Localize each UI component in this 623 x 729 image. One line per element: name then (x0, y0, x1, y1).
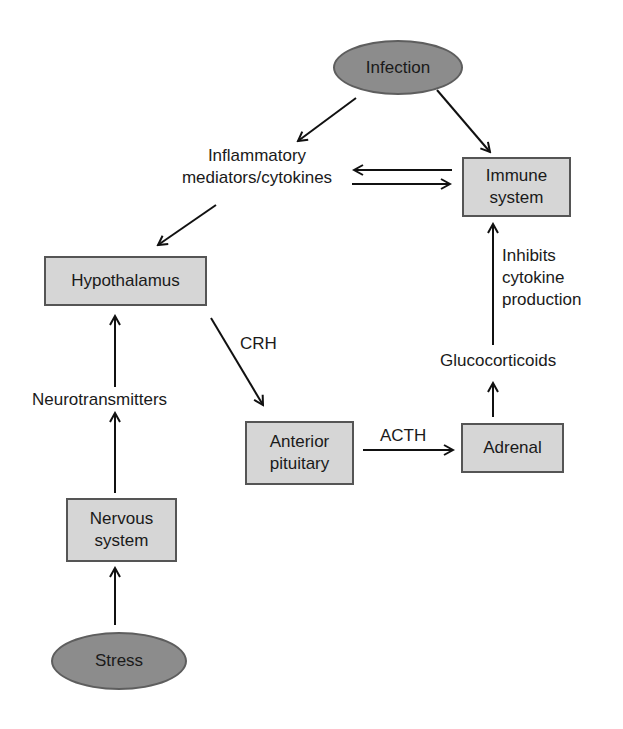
adrenal-label: Adrenal (483, 437, 542, 459)
inflammatory-mediators-label: Inflammatory mediators/cytokines (162, 145, 352, 189)
neurotransmitters-label: Neurotransmitters (32, 389, 167, 411)
crh-label: CRH (240, 333, 277, 355)
arrow-crh (211, 318, 263, 405)
nervous-system-label: Nervous system (90, 508, 153, 552)
adrenal-node: Adrenal (461, 423, 564, 473)
hypothalamus-label: Hypothalamus (71, 270, 180, 292)
immune-system-node: Immune system (462, 157, 571, 217)
stress-node: Stress (51, 632, 187, 690)
hypothalamus-node: Hypothalamus (44, 256, 207, 306)
acth-label: ACTH (380, 425, 426, 447)
glucocorticoids-label: Glucocorticoids (440, 350, 556, 372)
arrow-infection-to-inflammatory (298, 98, 356, 141)
arrow-inflammatory-to-hypothalamus (158, 205, 216, 245)
stress-label: Stress (95, 650, 143, 672)
inhibits-cytokine-production-label: Inhibits cytokine production (502, 245, 581, 311)
immune-system-label: Immune system (486, 165, 547, 209)
nervous-system-node: Nervous system (66, 498, 177, 562)
infection-node: Infection (333, 40, 463, 95)
infection-label: Infection (366, 57, 430, 79)
anterior-pituitary-node: Anterior pituitary (245, 421, 354, 485)
anterior-pituitary-label: Anterior pituitary (270, 431, 330, 475)
arrow-infection-to-immune (437, 90, 490, 152)
